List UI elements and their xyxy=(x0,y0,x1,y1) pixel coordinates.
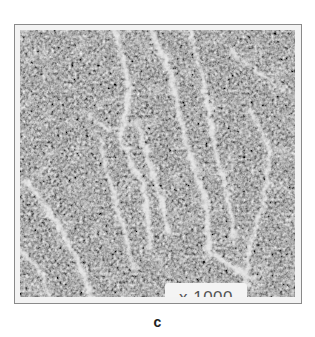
figure-caption: c xyxy=(0,314,315,330)
micrograph-image: x 1000 xyxy=(20,30,295,297)
micrograph-frame: x 1000 xyxy=(14,24,302,304)
magnification-label: x 1000 xyxy=(165,283,247,297)
